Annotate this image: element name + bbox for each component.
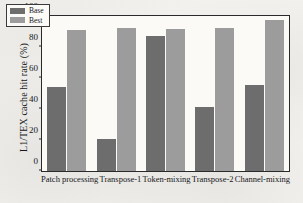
x-tick-label: Transpose-2 bbox=[191, 174, 235, 184]
bar-groups bbox=[42, 16, 289, 171]
y-tick-label-4: 80 bbox=[29, 32, 42, 42]
y-tick-label-3: 60 bbox=[29, 63, 42, 73]
legend-item-base: Base bbox=[10, 7, 44, 15]
bar-group bbox=[91, 16, 140, 171]
bar-group bbox=[240, 16, 289, 171]
legend-swatch-best bbox=[10, 17, 25, 23]
bar-base bbox=[97, 139, 116, 171]
y-tick-label-0: 0 bbox=[34, 156, 43, 166]
bar-best bbox=[265, 20, 284, 171]
bar-best bbox=[117, 28, 136, 171]
x-tick-label: Channel-mixing bbox=[235, 174, 290, 184]
plot-inner: 020406080100 bbox=[42, 16, 289, 171]
x-tick-label: Patch processing bbox=[41, 174, 98, 184]
y-tick-label-1: 20 bbox=[29, 125, 42, 135]
legend-label: Best bbox=[29, 17, 42, 25]
plot-area: 020406080100 bbox=[41, 15, 290, 172]
bar-best bbox=[215, 28, 234, 171]
legend-swatch-base bbox=[10, 8, 25, 14]
bar-group bbox=[190, 16, 239, 171]
bar-base bbox=[146, 36, 165, 171]
bar-group bbox=[141, 16, 190, 171]
chart-legend: BaseBest bbox=[6, 4, 50, 27]
bar-best bbox=[166, 29, 185, 171]
bar-base bbox=[195, 107, 214, 171]
bar-best bbox=[67, 30, 86, 171]
y-tick-label-2: 40 bbox=[29, 94, 42, 104]
bar-chart-figure: L1/TEX cache hit rate (%) 020406080100 P… bbox=[0, 0, 303, 203]
x-axis-tick-labels: Patch processingTranspose-1Token-mixingT… bbox=[41, 174, 290, 184]
legend-item-best: Best bbox=[10, 17, 44, 25]
y-axis-label: L1/TEX cache hit rate (%) bbox=[18, 13, 29, 183]
x-tick-label: Token-mixing bbox=[143, 174, 191, 184]
x-tick-label: Transpose-1 bbox=[98, 174, 142, 184]
legend-label: Base bbox=[29, 7, 44, 15]
bar-base bbox=[245, 85, 264, 171]
bar-base bbox=[47, 87, 66, 171]
bar-group bbox=[42, 16, 91, 171]
